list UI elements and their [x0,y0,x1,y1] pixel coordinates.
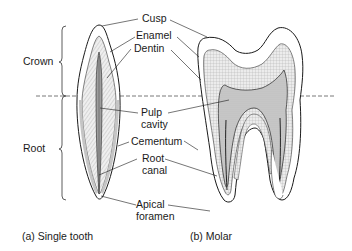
label-root: Root [23,143,45,154]
single-tooth [77,25,120,199]
label-apical-foramen-line2: foramen [136,211,175,222]
label-cusp: Cusp [142,13,167,24]
molar [198,28,303,202]
root-brace [59,96,66,200]
label-enamel: Enamel [136,30,172,41]
label-pulp-cavity-line1: Pulp [141,107,162,118]
caption-molar: (b) Molar [190,230,232,242]
crown-brace [59,26,66,96]
caption-single-tooth: (a) Single tooth [22,230,93,242]
label-dentin: Dentin [134,43,164,54]
label-root-canal-line1: Root [142,153,164,164]
label-cementum: Cementum [131,136,182,147]
label-root-canal-line2: canal [142,165,167,176]
label-apical-foramen-line1: Apical [136,199,165,210]
tooth-anatomy-diagram [0,0,352,251]
label-pulp-cavity-line2: cavity [141,119,168,130]
label-crown: Crown [23,56,53,67]
